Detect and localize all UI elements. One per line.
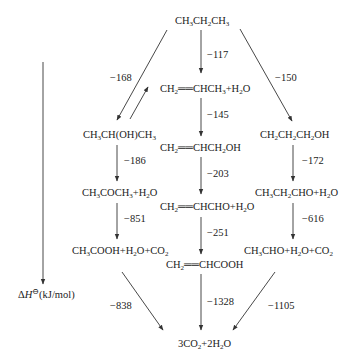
node-acrylic: CH2══CHCOOH	[166, 259, 244, 272]
value-allyl-acrolein: −203	[207, 168, 229, 179]
value-acetone-acetic: −851	[124, 213, 146, 224]
node-final: 3CO2+2H2O	[178, 338, 232, 351]
node-propanol: CH2CH2CH2OH	[260, 129, 330, 142]
node-isopropanol: CH3CH(OH)CH3	[83, 129, 156, 142]
value-acrolein-acrylic: −251	[207, 227, 229, 238]
value-propanal-acetaldehyde: −616	[302, 213, 324, 224]
node-acetaldehyde: CH3CHO+H2O+CO2	[244, 245, 333, 258]
value-propanol-propanal: −172	[302, 155, 324, 166]
node-acetone: CH3COCH3+H2O	[82, 187, 158, 200]
value-propane-propene: −117	[207, 49, 228, 60]
node-acetic: CH3COOH+H2O+CO2	[72, 245, 169, 258]
node-allyl-alcohol: CH2══CHCH2OH	[160, 142, 241, 155]
value-propene-allyl: −145	[207, 109, 229, 120]
value-acetaldehyde-final: −1105	[268, 300, 295, 311]
value-propane-isopropanol: −168	[110, 72, 132, 83]
node-propanal: CH3CH2CHO+H2O	[255, 187, 338, 200]
value-acrylic-final: −1328	[207, 296, 234, 307]
node-propane: CH3CH2CH3	[175, 15, 230, 28]
value-isopropanol-acetone: −186	[124, 155, 146, 166]
node-propene: CH2══CHCH3+H2O	[160, 83, 251, 96]
axis-label: ΔH⊖(kJ/mol)	[18, 287, 75, 301]
value-propane-propanol: −150	[275, 72, 297, 83]
value-acetic-final: −838	[110, 300, 132, 311]
node-acrolein: CH2══CHCHO+H2O	[160, 201, 255, 214]
reaction-enthalpy-diagram: ΔH⊖(kJ/mol) CH3CH2CH3 CH2══CHCH3+H2O CH3…	[0, 0, 345, 362]
